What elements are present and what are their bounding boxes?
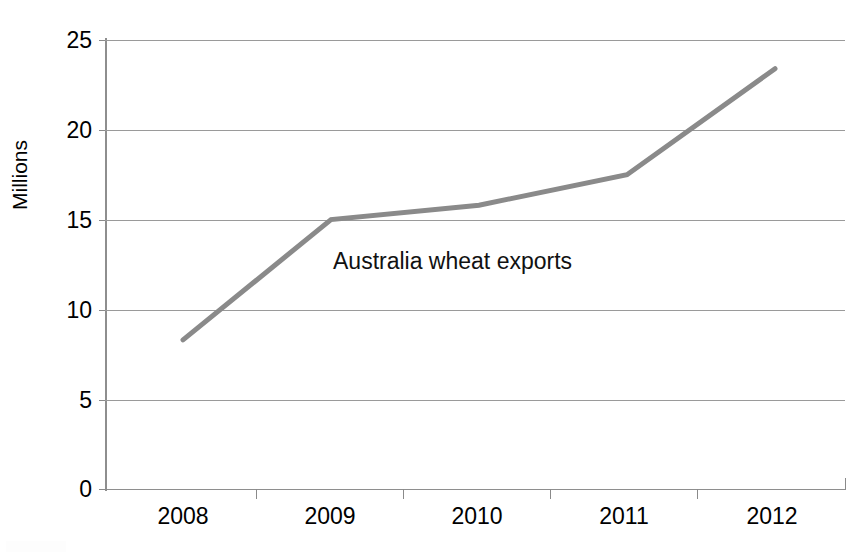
- x-axis-end-tick: [845, 478, 846, 489]
- x-tick-label-2010: 2010: [417, 505, 537, 528]
- x-tick-label-2011: 2011: [564, 505, 684, 528]
- x-tick-mark-4: [697, 489, 698, 499]
- gridline-5: [105, 400, 845, 401]
- y-tick-label-5: 5: [34, 389, 92, 412]
- scan-artifact: [6, 541, 66, 552]
- gridline-20: [105, 130, 845, 131]
- gridline-10: [105, 310, 845, 311]
- x-axis-line: [105, 489, 846, 490]
- x-tick-mark-1: [256, 489, 257, 499]
- series-annotation-label: Australia wheat exports: [333, 248, 572, 275]
- y-tick-label-20: 20: [34, 119, 92, 142]
- y-tick-label-10: 10: [34, 299, 92, 322]
- y-tick-label-0: 0: [34, 478, 92, 501]
- x-tick-mark-3: [550, 489, 551, 499]
- y-tick-label-15: 15: [34, 209, 92, 232]
- x-tick-mark-2: [403, 489, 404, 499]
- line-chart: Millions 25 20 15 10 5 0 2008 2009 2010 …: [0, 0, 868, 557]
- x-tick-label-2012: 2012: [712, 505, 832, 528]
- gridline-15: [105, 220, 845, 221]
- y-tick-label-25: 25: [34, 29, 92, 52]
- gridline-25: [105, 40, 845, 41]
- x-tick-label-2008: 2008: [123, 505, 243, 528]
- x-tick-label-2009: 2009: [270, 505, 390, 528]
- y-axis-title: Millions: [8, 110, 36, 240]
